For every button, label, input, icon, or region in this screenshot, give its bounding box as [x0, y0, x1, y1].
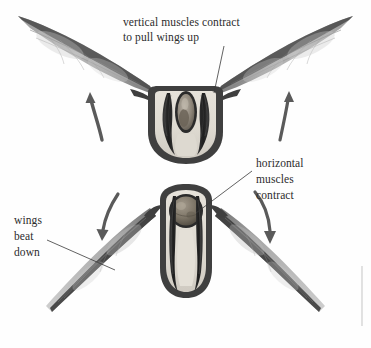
insect-flight-diagram: [0, 0, 371, 348]
label-vertical-muscles-line1: vertical muscles contract: [123, 16, 240, 30]
label-horizontal-muscles-line2: muscles: [256, 173, 294, 187]
label-wings-beat-down-line1: wings: [14, 214, 42, 228]
figure-canvas: vertical muscles contract to pull wings …: [0, 0, 371, 348]
arrow-down-left: [97, 194, 119, 241]
wing-lower-left: [46, 208, 156, 312]
label-horizontal-muscles-line1: horizontal: [256, 157, 304, 171]
arrow-up-left: [86, 92, 103, 140]
thorax-lower: [144, 184, 228, 298]
label-vertical-muscles-line2: to pull wings up: [123, 31, 199, 45]
thorax-upper: [130, 86, 241, 164]
label-wings-beat-down-line2: beat: [14, 230, 34, 244]
label-wings-beat-down-line3: down: [14, 246, 40, 260]
label-horizontal-muscles-line3: contract: [256, 189, 294, 203]
arrow-up-right: [280, 91, 294, 140]
